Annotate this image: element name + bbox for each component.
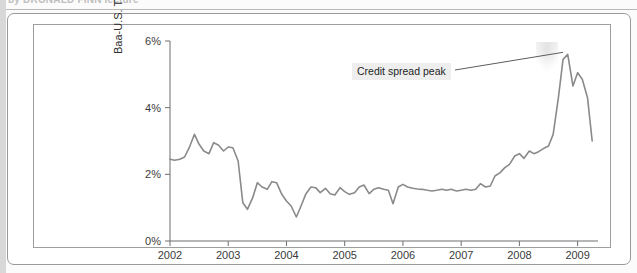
x-tick-label: 2009 (565, 249, 589, 261)
x-tick-label: 2002 (158, 249, 182, 261)
x-tick-label: 2004 (274, 249, 298, 261)
y-tick-label: 0% (145, 235, 161, 247)
x-tick-label: 2003 (216, 249, 240, 261)
y-tick-label: 6% (145, 35, 161, 47)
x-tick-label: 2008 (507, 249, 531, 261)
y-tick-label: 2% (145, 168, 161, 180)
annotation-credit-spread-peak: Credit spread peak (352, 63, 451, 80)
annotation-leader-line (455, 52, 563, 70)
x-tick-label: 2006 (391, 249, 415, 261)
page-background: by DRONALD FINN lecture Baa-U.S. Treasur… (0, 0, 637, 273)
x-axis-ticks: 20022003200420052006200720082009 (158, 241, 590, 261)
y-axis-ticks: 0%2%4%6% (145, 35, 170, 247)
x-tick-label: 2007 (449, 249, 473, 261)
x-tick-label: 2005 (332, 249, 356, 261)
y-tick-label: 4% (145, 102, 161, 114)
credit-spread-line-chart: 0%2%4%6% 2002200320042005200620072008200… (0, 0, 637, 273)
